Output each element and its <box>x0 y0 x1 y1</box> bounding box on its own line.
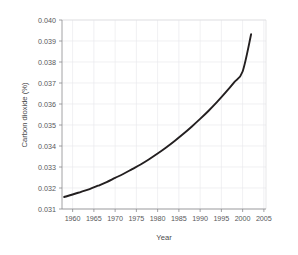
y-tick-label: 0.034 <box>38 142 56 151</box>
y-tick-label: 0.038 <box>38 58 56 67</box>
x-tick-label: 2000 <box>235 214 251 223</box>
plot-frame <box>62 20 266 209</box>
y-tick-label: 0.031 <box>38 205 56 214</box>
chart-figure: 0.0310.0320.0330.0340.0350.0360.0370.038… <box>0 0 298 255</box>
y-tick-label: 0.032 <box>38 184 56 193</box>
gridlines-group <box>62 20 266 209</box>
x-tick-label: 2005 <box>256 214 272 223</box>
x-tick-label: 1970 <box>107 214 123 223</box>
x-tick-label: 1965 <box>86 214 102 223</box>
y-tick-label: 0.039 <box>38 37 56 46</box>
x-tick-label: 1995 <box>213 214 229 223</box>
y-tick-label: 0.037 <box>38 79 56 88</box>
x-tick-label: 1985 <box>171 214 187 223</box>
tick-marks-group <box>59 20 264 212</box>
y-tick-label: 0.036 <box>38 100 56 109</box>
y-tick-label: 0.035 <box>38 121 56 130</box>
x-axis-tick-labels: 1960196519701975198019851990199520002005 <box>65 214 272 223</box>
x-tick-label: 1960 <box>65 214 81 223</box>
x-tick-label: 1975 <box>128 214 144 223</box>
x-tick-label: 1990 <box>192 214 208 223</box>
x-tick-label: 1980 <box>150 214 166 223</box>
y-tick-label: 0.040 <box>38 16 56 25</box>
y-tick-label: 0.033 <box>38 163 56 172</box>
x-axis-title: Year <box>156 233 172 242</box>
carbon-dioxide-line-chart: 0.0310.0320.0330.0340.0350.0360.0370.038… <box>0 0 298 255</box>
y-axis-title: Carbon dioxide (%) <box>20 82 29 147</box>
y-axis-tick-labels: 0.0310.0320.0330.0340.0350.0360.0370.038… <box>38 16 56 214</box>
